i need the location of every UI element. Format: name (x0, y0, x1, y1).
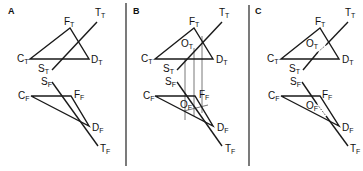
label-tt: TT (219, 7, 230, 19)
label-tf: TF (350, 143, 360, 155)
line-st-top-hidden (318, 45, 326, 52)
front-view-a (31, 82, 98, 146)
label-tf: TF (225, 143, 235, 155)
label-st: ST (163, 63, 175, 75)
label-cf: CF (268, 90, 280, 102)
label-ft: FT (64, 16, 75, 28)
label-ot: OT (306, 38, 319, 50)
label-df: DF (217, 122, 229, 134)
label-sf: SF (290, 76, 301, 88)
label-ot: OT (181, 38, 194, 50)
label-ct: CT (141, 53, 153, 65)
label-ff: FF (322, 89, 332, 101)
label-ff: FF (74, 89, 84, 101)
panel-label-a: A (8, 6, 15, 16)
label-cf: CF (143, 90, 155, 102)
label-cf: CF (18, 90, 30, 102)
triangle-top (30, 28, 89, 59)
label-ft: FT (189, 16, 200, 28)
panel-a: A FT TT CT DT ST SF CF FF DF TF (8, 6, 110, 155)
label-df: DF (92, 122, 104, 134)
label-st: ST (38, 63, 50, 75)
label-tf: TF (100, 143, 110, 155)
panel-label-c: C (255, 6, 262, 16)
line-st-top-visible-lower (303, 52, 318, 70)
front-view-c (281, 82, 348, 146)
label-ft: FT (315, 16, 326, 28)
label-df: DF (342, 122, 354, 134)
label-sf: SF (41, 76, 52, 88)
panel-label-b: B (133, 6, 140, 16)
line-st-front-hidden (317, 104, 326, 116)
label-ct: CT (267, 53, 279, 65)
orthographic-diagram: A FT TT CT DT ST SF CF FF DF TF B (0, 0, 363, 171)
label-dt: DT (91, 54, 103, 66)
line-st-top-visible-upper (326, 22, 348, 45)
label-tt: TT (345, 7, 356, 19)
label-ff: FF (199, 89, 209, 101)
label-sf: SF (165, 76, 176, 88)
panel-b: B FT TT OT CT DT ST SF CF FF OF DF TF (133, 6, 235, 155)
front-view-b (155, 82, 222, 146)
label-tt: TT (95, 7, 106, 19)
label-dt: DT (342, 54, 354, 66)
label-ct: CT (17, 53, 29, 65)
panel-c: C FT TT OT CT DT ST SF CF FF OF DF TF (255, 6, 360, 155)
label-st: ST (289, 63, 301, 75)
label-dt: DT (216, 54, 228, 66)
